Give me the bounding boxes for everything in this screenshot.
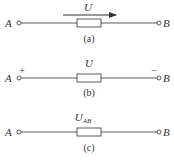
circuit-diagram: U A B (a) U + − A B (b) UAB A B (c)	[0, 0, 174, 161]
plus-polarity: +	[19, 65, 25, 76]
terminal-b-label: B	[163, 17, 170, 29]
figure-a: U A B (a)	[4, 1, 170, 45]
resistor-icon	[77, 74, 101, 82]
resistor-icon	[77, 19, 101, 27]
terminal-b-label: B	[163, 72, 170, 84]
terminal-a-node-icon	[17, 130, 21, 134]
terminal-b-label: B	[163, 126, 170, 138]
figure-b: U + − A B (b)	[4, 57, 170, 99]
terminal-a-node-icon	[17, 21, 21, 25]
minus-polarity: −	[151, 65, 157, 76]
voltage-label-b: U	[85, 57, 94, 69]
resistor-icon	[77, 128, 101, 136]
figure-c: UAB A B (c)	[4, 111, 170, 154]
voltage-label-c: UAB	[75, 111, 92, 125]
caption-a: (a)	[83, 33, 94, 45]
terminal-a-label: A	[4, 17, 12, 29]
terminal-a-label: A	[4, 126, 12, 138]
terminal-b-node-icon	[157, 130, 161, 134]
terminal-a-node-icon	[17, 76, 21, 80]
voltage-label-a: U	[84, 1, 93, 13]
caption-b: (b)	[83, 87, 95, 99]
terminal-b-node-icon	[157, 21, 161, 25]
caption-c: (c)	[83, 142, 94, 154]
terminal-b-node-icon	[157, 76, 161, 80]
terminal-a-label: A	[4, 72, 12, 84]
